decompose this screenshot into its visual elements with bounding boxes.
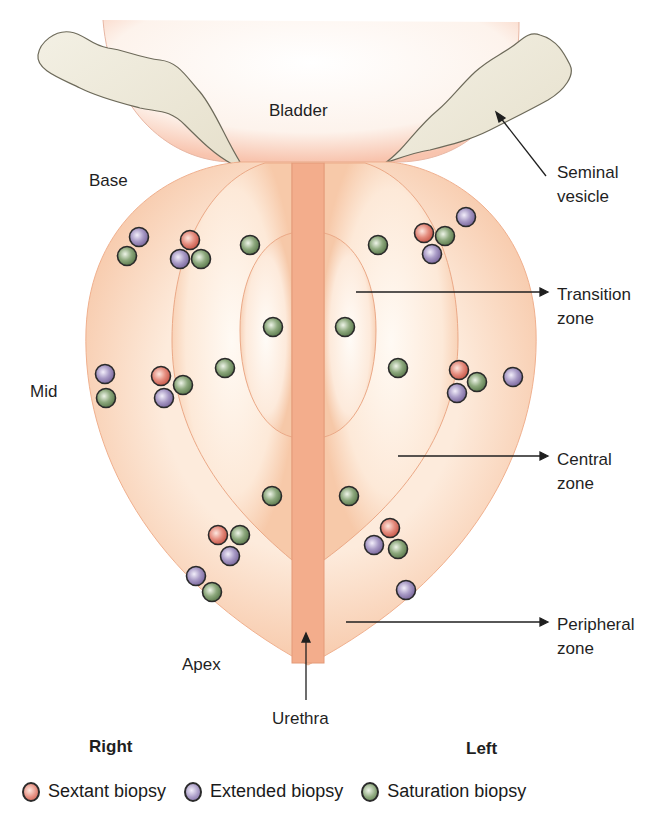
saturation-biopsy-point xyxy=(174,376,193,395)
sextant-biopsy-point xyxy=(381,519,400,538)
saturation-biopsy-point xyxy=(192,250,211,269)
saturation-biopsy-point xyxy=(231,526,250,545)
label-central-2: zone xyxy=(557,471,594,496)
saturation-biopsy-point xyxy=(468,373,487,392)
urethra xyxy=(292,163,324,663)
sextant-biopsy-point xyxy=(450,361,469,380)
label-mid: Mid xyxy=(30,379,57,404)
saturation-biopsy-point xyxy=(241,236,260,255)
label-peripheral-2: zone xyxy=(557,636,594,661)
label-right: Right xyxy=(89,734,132,759)
saturation-biopsy-point xyxy=(97,389,116,408)
saturation-biopsy-point xyxy=(216,359,235,378)
label-transition-2: zone xyxy=(557,306,594,331)
label-apex: Apex xyxy=(182,652,221,677)
label-urethra: Urethra xyxy=(272,706,329,731)
sextant-biopsy-point xyxy=(152,367,171,386)
saturation-biopsy-point xyxy=(389,359,408,378)
extended-biopsy-point xyxy=(96,365,115,384)
legend-sextant-label: Sextant biopsy xyxy=(48,781,166,802)
extended-biopsy-point xyxy=(130,228,149,247)
extended-biopsy-point xyxy=(423,245,442,264)
saturation-biopsy-point xyxy=(340,487,359,506)
extended-biopsy-point xyxy=(397,581,416,600)
saturation-biopsy-point xyxy=(389,540,408,559)
legend-sextant: Sextant biopsy xyxy=(22,781,166,802)
label-transition-1: Transition xyxy=(557,282,631,307)
extended-biopsy-point xyxy=(155,389,174,408)
saturation-biopsy-point xyxy=(336,318,355,337)
extended-biopsy-point xyxy=(171,250,190,269)
extended-biopsy-point xyxy=(221,547,240,566)
saturation-biopsy-point xyxy=(263,487,282,506)
saturation-biopsy-point xyxy=(369,236,388,255)
sextant-dot-icon xyxy=(22,782,40,802)
label-central-1: Central xyxy=(557,447,612,472)
saturation-dot-icon xyxy=(361,782,379,802)
legend-saturation: Saturation biopsy xyxy=(361,781,526,802)
legend-extended: Extended biopsy xyxy=(184,781,343,802)
saturation-biopsy-point xyxy=(436,227,455,246)
legend: Sextant biopsy Extended biopsy Saturatio… xyxy=(22,781,544,802)
sextant-biopsy-point xyxy=(415,224,434,243)
extended-biopsy-point xyxy=(187,567,206,586)
extended-biopsy-point xyxy=(504,368,523,387)
sextant-biopsy-point xyxy=(181,231,200,250)
extended-dot-icon xyxy=(184,782,202,802)
label-seminal-vesicle-2: vesicle xyxy=(557,184,609,209)
saturation-biopsy-point xyxy=(203,583,222,602)
sextant-biopsy-point xyxy=(209,526,228,545)
extended-biopsy-point xyxy=(448,384,467,403)
label-seminal-vesicle-1: Seminal xyxy=(557,160,618,185)
legend-saturation-label: Saturation biopsy xyxy=(387,781,526,802)
label-base: Base xyxy=(89,168,128,193)
label-peripheral-1: Peripheral xyxy=(557,612,635,637)
legend-extended-label: Extended biopsy xyxy=(210,781,343,802)
extended-biopsy-point xyxy=(365,536,384,555)
saturation-biopsy-point xyxy=(118,247,137,266)
label-bladder: Bladder xyxy=(269,98,328,123)
extended-biopsy-point xyxy=(457,208,476,227)
prostate-diagram xyxy=(0,0,671,820)
saturation-biopsy-point xyxy=(264,318,283,337)
label-left: Left xyxy=(466,736,497,761)
